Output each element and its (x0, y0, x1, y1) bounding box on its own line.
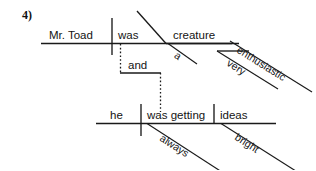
adjective-bright-word: bright (233, 131, 262, 155)
conjunction-group: and (120, 44, 161, 112)
conjunction-word: and (128, 59, 147, 71)
sentence-diagram-canvas: Mr. Toad was creature a enthusiastic ver… (0, 0, 316, 170)
adjective-bright-line (221, 124, 310, 171)
article-modifier-word: a (172, 49, 184, 62)
main-clause-group: Mr. Toad was creature a enthusiastic ver… (41, 11, 312, 92)
sentence-diagram-page: 4) Mr. Toad was creature a enthusiastic (0, 0, 316, 170)
subject-word-main: Mr. Toad (49, 29, 93, 41)
adverb-always-word: always (158, 132, 191, 160)
predicate-nominative-slant (137, 11, 166, 44)
verb-word-main: was (117, 29, 139, 41)
subject-word-second: he (110, 109, 123, 121)
predicate-nominative-word: creature (173, 29, 215, 41)
second-clause-group: he was getting ideas always bright (96, 104, 310, 170)
verb-word-second: was getting (146, 109, 205, 121)
direct-object-word: ideas (220, 109, 248, 121)
